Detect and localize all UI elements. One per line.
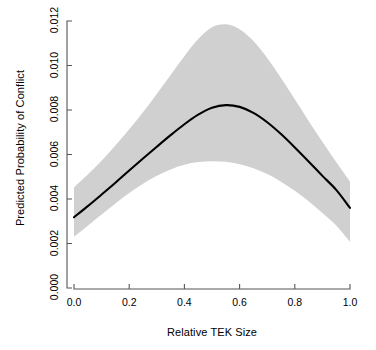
y-tick-label: 0.004: [48, 175, 60, 221]
x-tick-label: 0.2: [109, 296, 149, 308]
x-axis-title: Relative TEK Size: [74, 326, 350, 338]
y-tick-label: 0.012: [48, 0, 60, 43]
y-tick-label: 0.008: [48, 86, 60, 132]
x-tick-label: 0.4: [164, 296, 204, 308]
x-tick-label: 0.6: [220, 296, 260, 308]
x-tick-label: 0.8: [275, 296, 315, 308]
y-tick-label: 0.002: [48, 220, 60, 266]
y-axis-title: Predicted Probability of Conflict: [14, 13, 30, 283]
chart-figure: 0.0000.0020.0040.0060.0080.0100.012 0.00…: [0, 0, 376, 350]
confidence-band: [74, 24, 350, 241]
y-tick-label: 0.006: [48, 131, 60, 177]
x-tick-label: 1.0: [330, 296, 370, 308]
y-tick-label: 0.010: [48, 42, 60, 88]
x-tick-label: 0.0: [54, 296, 94, 308]
